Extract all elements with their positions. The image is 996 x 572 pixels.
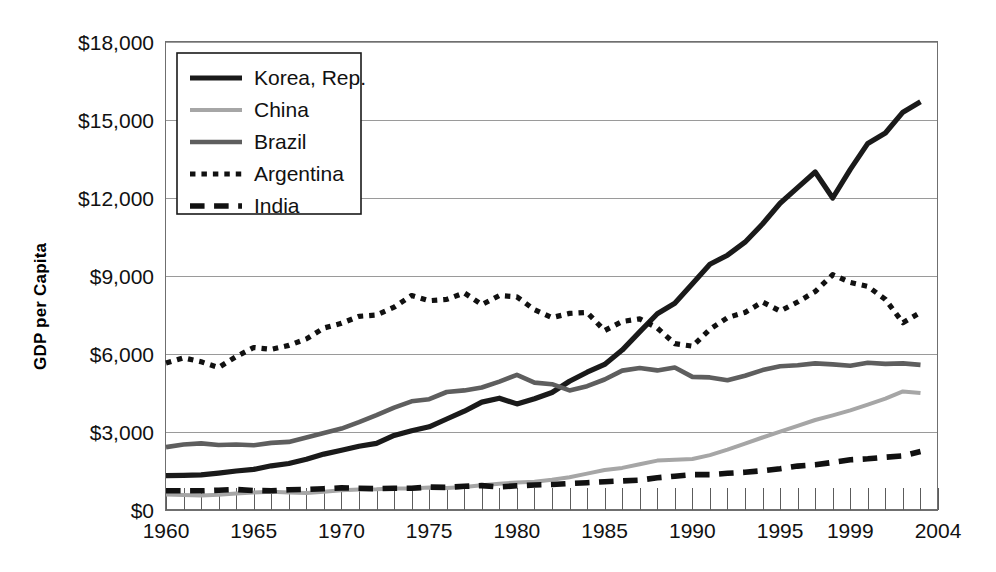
legend-label-brazil: Brazil bbox=[254, 130, 307, 153]
x-tick-label-1999: 1999 bbox=[827, 519, 874, 542]
series-line-brazil bbox=[166, 363, 921, 447]
x-tick-label-1975: 1975 bbox=[406, 519, 453, 542]
x-tick-label-2004: 2004 bbox=[915, 519, 962, 542]
x-tick-label-1970: 1970 bbox=[318, 519, 365, 542]
chart-legend: Korea, Rep.ChinaBrazilArgentinaIndia bbox=[177, 53, 366, 217]
legend-label-korea-rep: Korea, Rep. bbox=[254, 66, 366, 89]
x-tick-label-1980: 1980 bbox=[494, 519, 541, 542]
x-tick-label-1965: 1965 bbox=[230, 519, 277, 542]
y-tick-label-18000: $18,000 bbox=[78, 31, 154, 54]
x-tick-label-1995: 1995 bbox=[757, 519, 804, 542]
y-tick-label-3000: $3,000 bbox=[90, 421, 154, 444]
legend-label-argentina: Argentina bbox=[254, 162, 344, 185]
y-tick-label-9000: $9,000 bbox=[90, 265, 154, 288]
y-axis-tick-labels: $0$3,000$6,000$9,000$12,000$15,000$18,00… bbox=[78, 31, 154, 522]
x-tick-label-1985: 1985 bbox=[581, 519, 628, 542]
y-tick-label-12000: $12,000 bbox=[78, 187, 154, 210]
y-tick-label-6000: $6,000 bbox=[90, 343, 154, 366]
series-line-argentina bbox=[166, 275, 921, 368]
y-axis-title: GDP per Capita bbox=[31, 242, 50, 370]
legend-label-china: China bbox=[254, 98, 309, 121]
y-tick-label-15000: $15,000 bbox=[78, 109, 154, 132]
series-line-india bbox=[166, 452, 921, 491]
legend-label-india: India bbox=[254, 194, 300, 217]
x-tick-label-1960: 1960 bbox=[143, 519, 190, 542]
chart-canvas: $0$3,000$6,000$9,000$12,000$15,000$18,00… bbox=[0, 0, 996, 572]
x-axis-tick-labels: 1960196519701975198019851990199519992004 bbox=[143, 519, 962, 542]
x-tick-label-1990: 1990 bbox=[669, 519, 716, 542]
gdp-per-capita-line-chart: $0$3,000$6,000$9,000$12,000$15,000$18,00… bbox=[0, 0, 996, 572]
y-axis-title-text: GDP per Capita bbox=[31, 242, 50, 370]
